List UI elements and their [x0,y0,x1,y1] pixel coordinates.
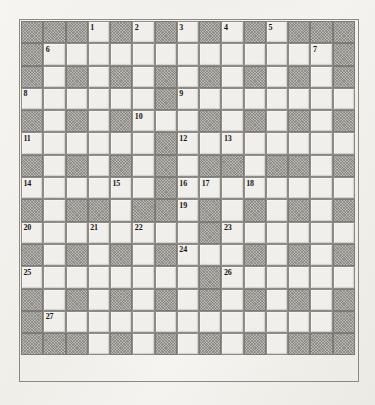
grid-letter-cell[interactable] [266,333,288,355]
grid-letter-cell[interactable]: 7 [310,43,332,65]
grid-letter-cell[interactable] [221,110,243,132]
grid-letter-cell[interactable] [132,333,154,355]
grid-letter-cell[interactable] [177,110,199,132]
grid-letter-cell[interactable] [266,199,288,221]
grid-letter-cell[interactable] [266,177,288,199]
grid-letter-cell[interactable] [310,289,332,311]
grid-letter-cell[interactable] [177,266,199,288]
grid-letter-cell[interactable] [310,177,332,199]
grid-letter-cell[interactable] [310,88,332,110]
grid-letter-cell[interactable]: 22 [132,222,154,244]
grid-letter-cell[interactable]: 8 [21,88,43,110]
grid-letter-cell[interactable] [66,88,88,110]
grid-letter-cell[interactable] [177,66,199,88]
grid-letter-cell[interactable] [266,311,288,333]
grid-letter-cell[interactable] [310,222,332,244]
grid-letter-cell[interactable] [43,88,65,110]
grid-letter-cell[interactable] [244,43,266,65]
grid-letter-cell[interactable] [110,222,132,244]
grid-letter-cell[interactable] [155,110,177,132]
grid-letter-cell[interactable] [43,222,65,244]
grid-letter-cell[interactable] [66,311,88,333]
grid-letter-cell[interactable]: 13 [221,132,243,154]
grid-letter-cell[interactable] [132,266,154,288]
grid-letter-cell[interactable]: 3 [177,21,199,43]
grid-letter-cell[interactable]: 16 [177,177,199,199]
grid-letter-cell[interactable] [132,66,154,88]
grid-letter-cell[interactable] [288,88,310,110]
grid-letter-cell[interactable] [244,155,266,177]
grid-letter-cell[interactable] [88,110,110,132]
grid-letter-cell[interactable] [132,177,154,199]
grid-letter-cell[interactable]: 25 [21,266,43,288]
grid-letter-cell[interactable] [266,289,288,311]
grid-letter-cell[interactable] [333,177,355,199]
grid-letter-cell[interactable] [88,66,110,88]
grid-letter-cell[interactable] [221,333,243,355]
grid-letter-cell[interactable]: 18 [244,177,266,199]
grid-letter-cell[interactable] [266,88,288,110]
grid-letter-cell[interactable]: 15 [110,177,132,199]
grid-letter-cell[interactable] [155,266,177,288]
grid-letter-cell[interactable] [288,222,310,244]
grid-letter-cell[interactable] [88,266,110,288]
grid-letter-cell[interactable] [88,43,110,65]
grid-letter-cell[interactable] [132,88,154,110]
grid-letter-cell[interactable] [221,311,243,333]
grid-letter-cell[interactable] [221,88,243,110]
grid-letter-cell[interactable] [132,43,154,65]
grid-letter-cell[interactable] [333,132,355,154]
grid-letter-cell[interactable] [244,88,266,110]
grid-letter-cell[interactable]: 14 [21,177,43,199]
grid-letter-cell[interactable] [155,222,177,244]
grid-letter-cell[interactable] [88,311,110,333]
grid-letter-cell[interactable]: 24 [177,244,199,266]
grid-letter-cell[interactable] [177,155,199,177]
grid-letter-cell[interactable] [110,88,132,110]
grid-letter-cell[interactable] [244,222,266,244]
grid-letter-cell[interactable] [43,132,65,154]
grid-letter-cell[interactable] [199,88,221,110]
grid-letter-cell[interactable] [199,311,221,333]
grid-letter-cell[interactable] [110,132,132,154]
grid-letter-cell[interactable] [110,199,132,221]
grid-letter-cell[interactable]: 21 [88,222,110,244]
grid-letter-cell[interactable] [43,289,65,311]
grid-letter-cell[interactable] [155,311,177,333]
grid-letter-cell[interactable] [244,266,266,288]
grid-letter-cell[interactable] [266,132,288,154]
grid-letter-cell[interactable]: 19 [177,199,199,221]
grid-letter-cell[interactable] [310,155,332,177]
grid-letter-cell[interactable] [266,244,288,266]
grid-letter-cell[interactable] [110,311,132,333]
grid-letter-cell[interactable] [177,222,199,244]
grid-letter-cell[interactable] [310,199,332,221]
grid-letter-cell[interactable] [310,132,332,154]
grid-letter-cell[interactable] [88,88,110,110]
grid-letter-cell[interactable] [88,333,110,355]
grid-letter-cell[interactable] [221,43,243,65]
grid-letter-cell[interactable] [266,110,288,132]
grid-letter-cell[interactable] [43,155,65,177]
grid-letter-cell[interactable] [221,244,243,266]
grid-letter-cell[interactable] [88,132,110,154]
grid-letter-cell[interactable]: 4 [221,21,243,43]
grid-letter-cell[interactable] [66,222,88,244]
grid-letter-cell[interactable] [88,155,110,177]
grid-letter-cell[interactable] [221,66,243,88]
grid-letter-cell[interactable] [43,266,65,288]
grid-letter-cell[interactable] [288,177,310,199]
grid-letter-cell[interactable] [266,66,288,88]
grid-letter-cell[interactable]: 11 [21,132,43,154]
grid-letter-cell[interactable] [288,43,310,65]
grid-letter-cell[interactable] [199,43,221,65]
grid-letter-cell[interactable] [288,132,310,154]
grid-letter-cell[interactable] [66,177,88,199]
grid-letter-cell[interactable] [221,177,243,199]
grid-letter-cell[interactable] [110,266,132,288]
grid-letter-cell[interactable] [132,155,154,177]
grid-letter-cell[interactable] [43,199,65,221]
grid-letter-cell[interactable] [333,222,355,244]
grid-letter-cell[interactable] [266,266,288,288]
grid-letter-cell[interactable] [88,244,110,266]
